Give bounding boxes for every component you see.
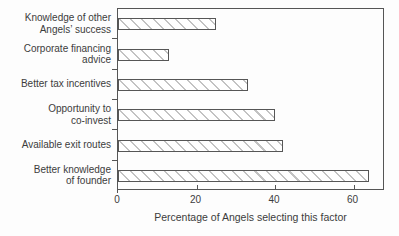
bar-6: [118, 170, 369, 182]
x-axis-tick-label: 40: [268, 194, 279, 205]
x-axis-tick: [197, 185, 198, 190]
x-axis-tick-label: 0: [114, 194, 120, 205]
x-axis-tick-zero: [117, 190, 118, 193]
x-axis-tick: [275, 185, 276, 190]
x-axis-tick: [354, 185, 355, 190]
category-label-4: Opportunity to co-invest: [0, 103, 111, 126]
category-label-1: Knowledge of other Angels’ success: [0, 12, 111, 35]
bar-chart-figure: Knowledge of other Angels’ successCorpor…: [0, 0, 399, 236]
category-label-2: Corporate financing advice: [0, 42, 111, 65]
y-axis-tick: [112, 129, 117, 130]
bar-1: [118, 18, 216, 30]
y-axis-tick: [112, 38, 117, 39]
y-axis-tick: [112, 160, 117, 161]
bar-3: [118, 79, 248, 91]
plot-area: [117, 8, 384, 190]
bar-4: [118, 109, 275, 121]
category-label-5: Available exit routes: [0, 139, 111, 151]
x-axis-tick-label: 60: [347, 194, 358, 205]
bar-5: [118, 140, 283, 152]
x-axis-label: Percentage of Angels selecting this fact…: [117, 211, 384, 223]
category-label-6: Better knowledge of founder: [0, 163, 111, 186]
y-axis-tick: [112, 99, 117, 100]
category-label-3: Better tax incentives: [0, 78, 111, 90]
y-axis-tick: [112, 69, 117, 70]
bar-2: [118, 49, 169, 61]
x-axis-tick-label: 20: [190, 194, 201, 205]
